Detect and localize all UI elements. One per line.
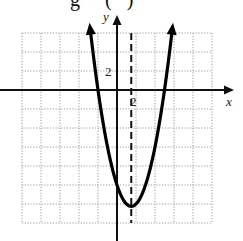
y-axis-label: y	[103, 9, 109, 25]
x-tick-label-2: 2	[130, 94, 137, 110]
curve-arrow-icon	[167, 23, 177, 35]
curve-arrow-icon	[86, 23, 96, 35]
x-axis-label: x	[226, 94, 232, 110]
y-tick-label-2: 2	[105, 64, 112, 80]
y-axis-arrow-icon	[113, 15, 122, 25]
parabola-graph	[0, 0, 243, 241]
